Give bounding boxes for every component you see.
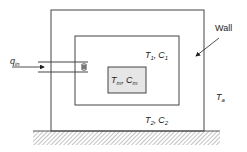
thermal-zone-diagram: qin Wall T1,C1 Tm,Cm Ta T2,C2 (0, 0, 247, 152)
coil-icon (82, 64, 87, 70)
wall-pointer-arrow (196, 38, 219, 56)
zone1-label: T1,C1 (145, 50, 168, 61)
ambient-label: Ta (216, 92, 226, 103)
ground-hatch (33, 131, 220, 145)
wall-label: Wall (215, 23, 232, 33)
zone2-label: T2,C2 (145, 115, 169, 126)
q-in-label: qin (10, 56, 20, 67)
